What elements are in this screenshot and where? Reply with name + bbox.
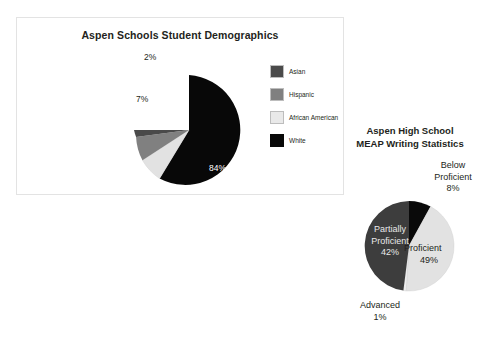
meap-label-partially-proficient-value: 42% [364, 247, 416, 259]
legend-item-hispanic[interactable]: Hispanic [270, 84, 350, 104]
demographics-pie-svg [133, 74, 245, 186]
meap-label-below-proficient: Below Proficient 8% [416, 160, 490, 195]
legend-swatch-hispanic [270, 88, 284, 101]
demographics-label-hispanic: 7% [162, 80, 174, 90]
demographics-label-asian: 2% [144, 52, 156, 62]
legend-item-asian[interactable]: Asian [270, 61, 350, 81]
legend-swatch-african-american [270, 111, 284, 124]
meap-chart-title: Aspen High School MEAP Writing Statistic… [330, 124, 490, 150]
meap-chart-title-line1: Aspen High School [330, 124, 490, 137]
meap-label-below-proficient-line1: Below [416, 160, 490, 172]
meap-label-partially-proficient: Partially Proficient 42% [364, 224, 416, 259]
meap-label-partially-proficient-line1: Partially [364, 224, 416, 236]
meap-label-advanced: Advanced 1% [338, 300, 422, 323]
meap-label-below-proficient-line2: Proficient [416, 172, 490, 184]
legend-label-white: White [289, 137, 306, 144]
legend-label-african-american: African American [289, 114, 338, 121]
slice-white [160, 75, 241, 185]
legend-swatch-asian [270, 65, 284, 78]
meap-label-partially-proficient-line2: Proficient [364, 236, 416, 248]
meap-chart-title-line2: MEAP Writing Statistics [330, 137, 490, 150]
legend-label-hispanic: Hispanic [289, 91, 314, 98]
demographics-chart-title: Aspen Schools Student Demographics [17, 29, 343, 41]
meap-label-advanced-value: 1% [338, 312, 422, 324]
demographics-label-african-american: 7% [136, 94, 148, 104]
demographics-pie-chart [133, 74, 245, 186]
legend-swatch-white [270, 134, 284, 147]
meap-label-advanced-name: Advanced [338, 300, 422, 312]
demographics-label-white: 84% [209, 163, 226, 173]
meap-label-below-proficient-value: 8% [416, 183, 490, 195]
legend-label-asian: Asian [289, 68, 305, 75]
